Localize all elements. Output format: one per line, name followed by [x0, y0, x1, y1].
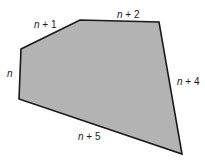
side-label-n-plus-2: n + 2	[117, 9, 140, 20]
side-label-n-plus-5: n + 5	[78, 131, 101, 142]
side-label-n-plus-1: n + 1	[34, 19, 57, 30]
side-label-n-plus-4: n + 4	[177, 76, 200, 87]
side-label-n: n	[7, 68, 13, 79]
pentagon-diagram: n + 1 n + 2 n + 4 n + 5 n	[0, 0, 205, 162]
